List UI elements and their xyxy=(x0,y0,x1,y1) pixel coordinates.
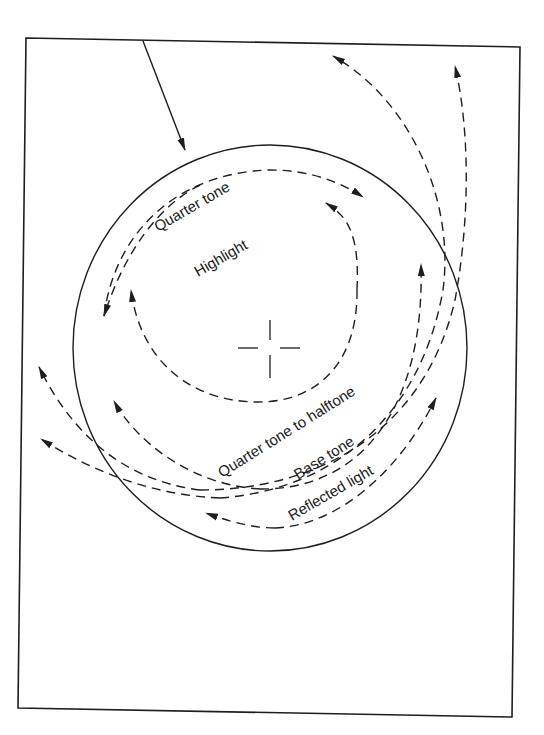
sphere-tone-diagram: Quarter tone Highlight Quarter tone to h… xyxy=(0,0,544,735)
picture-frame xyxy=(18,38,520,717)
